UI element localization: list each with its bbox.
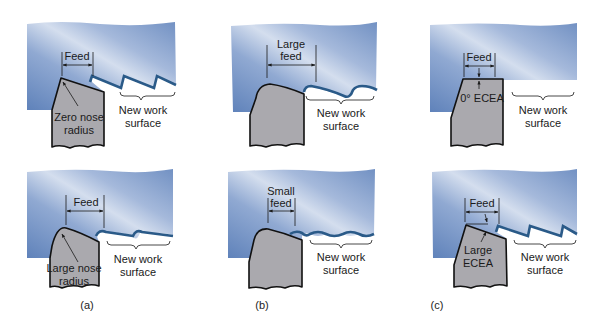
caption-c: (c) bbox=[431, 299, 444, 311]
tool-label-line1: Zero nose bbox=[54, 111, 104, 123]
surface-label-line2: surface bbox=[323, 120, 359, 132]
panel-b-bottom: Small feed New work surface bbox=[228, 169, 375, 289]
surface-label-line2: surface bbox=[120, 266, 156, 278]
panel-a-bottom: Feed Large nose radius New work surface bbox=[27, 169, 173, 288]
surface-brace bbox=[107, 241, 170, 249]
tool-label-line1: Large nose bbox=[46, 262, 101, 274]
surface-brace bbox=[306, 96, 374, 104]
surface-label-line1: New work bbox=[317, 107, 366, 119]
caption-a: (a) bbox=[80, 299, 93, 311]
feed-label-line2: feed bbox=[270, 197, 291, 209]
surface-brace bbox=[512, 92, 574, 100]
surface-brace bbox=[310, 240, 372, 248]
surface-label-line1: New work bbox=[119, 104, 168, 116]
cutting-tool bbox=[249, 229, 302, 289]
feed-label-line1: Large bbox=[277, 38, 305, 50]
panel-a-top: Feed Zero nose radius New work surface bbox=[27, 22, 176, 148]
tool-label-line2: ECEA bbox=[463, 257, 494, 269]
surface-label-line2: surface bbox=[125, 117, 161, 129]
feed-label-line1: Small bbox=[267, 185, 295, 197]
surface-label-line2: surface bbox=[323, 264, 359, 276]
feed-label: Feed bbox=[64, 50, 89, 62]
surface-label-line1: New work bbox=[114, 253, 163, 265]
surface-label-line1: New work bbox=[521, 251, 570, 263]
cutting-tool-diagram: Feed Zero nose radius New work surface F… bbox=[0, 0, 600, 329]
panel-c-bottom: Feed Large ECEA New work surface bbox=[432, 169, 577, 288]
tool-label-line2: radius bbox=[64, 124, 94, 136]
feed-label: Feed bbox=[469, 197, 494, 209]
tool-label-line2: radius bbox=[59, 275, 89, 287]
surface-label-line2: surface bbox=[527, 264, 563, 276]
surface-label-line1: New work bbox=[317, 251, 366, 263]
caption-b: (b) bbox=[255, 299, 268, 311]
panel-c-top: Feed 0° ECEA New work surface bbox=[430, 23, 577, 147]
feed-label-line2: feed bbox=[280, 50, 301, 62]
surface-label-line1: New work bbox=[519, 104, 568, 116]
surface-brace bbox=[120, 92, 175, 100]
tool-label-line1: Large bbox=[464, 244, 492, 256]
surface-brace bbox=[514, 240, 576, 248]
tool-label: 0° ECEA bbox=[460, 92, 504, 104]
cutting-tool bbox=[250, 84, 304, 147]
feed-label: Feed bbox=[466, 51, 491, 63]
surface-label-line2: surface bbox=[525, 117, 561, 129]
feed-label: Feed bbox=[73, 196, 98, 208]
panel-b-top: Large feed New work surface bbox=[231, 22, 377, 147]
